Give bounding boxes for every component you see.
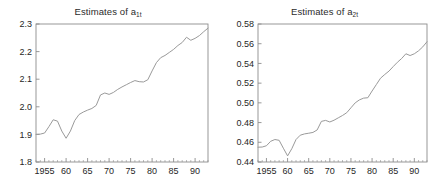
y-axis-tick-label: 1.9 <box>19 130 32 140</box>
x-axis-tick-label: 75 <box>346 166 356 176</box>
y-axis-tick-label: 2.2 <box>19 47 32 57</box>
x-axis-tick-label: 75 <box>126 166 136 176</box>
y-axis-tick-label: 0.54 <box>236 59 254 69</box>
x-axis-tick-label: 70 <box>104 166 114 176</box>
data-series-line <box>258 42 427 156</box>
y-axis-tick-label: 1.8 <box>19 157 32 167</box>
x-axis-tick-label: 60 <box>61 166 71 176</box>
x-axis-tick-label: 80 <box>367 166 377 176</box>
plot-area-a2t: 0.440.460.480.500.520.540.560.5819556065… <box>216 0 433 190</box>
x-axis-tick-label: 70 <box>325 166 335 176</box>
x-axis-tick-label: 60 <box>283 166 293 176</box>
x-axis-tick-label: 65 <box>83 166 93 176</box>
y-axis-tick-label: 0.46 <box>236 137 254 147</box>
figure-container: Estimates of a1t 1.81.92.02.12.22.319556… <box>0 0 433 190</box>
y-axis-tick-label: 2.3 <box>19 19 32 29</box>
chart-panel-a1t: Estimates of a1t 1.81.92.02.12.22.319556… <box>0 0 216 190</box>
y-axis-tick-label: 0.58 <box>236 19 254 29</box>
x-axis-tick-label: 90 <box>190 166 200 176</box>
x-axis-tick-label: 1955 <box>256 166 276 176</box>
y-axis-tick-label: 0.44 <box>236 157 254 167</box>
y-axis-tick-label: 0.50 <box>236 98 254 108</box>
y-axis-tick-label: 0.52 <box>236 78 254 88</box>
plot-area-a1t: 1.81.92.02.12.22.3195560657075808590 <box>0 0 216 190</box>
y-axis-tick-label: 0.48 <box>236 118 254 128</box>
chart-panel-a2t: Estimates of a2t 0.440.460.480.500.520.5… <box>216 0 433 190</box>
y-axis-tick-label: 2.0 <box>19 102 32 112</box>
plot-frame <box>258 24 427 162</box>
x-axis-tick-label: 1955 <box>35 166 55 176</box>
x-axis-tick-label: 80 <box>147 166 157 176</box>
data-series-line <box>36 28 208 138</box>
plot-frame <box>36 24 208 162</box>
x-axis-tick-label: 65 <box>304 166 314 176</box>
y-axis-tick-label: 2.1 <box>19 74 32 84</box>
x-axis-tick-label: 85 <box>388 166 398 176</box>
y-axis-tick-label: 0.56 <box>236 39 254 49</box>
x-axis-tick-label: 85 <box>169 166 179 176</box>
x-axis-tick-label: 90 <box>409 166 419 176</box>
